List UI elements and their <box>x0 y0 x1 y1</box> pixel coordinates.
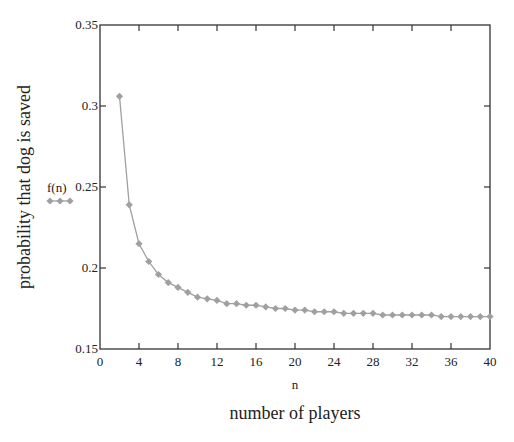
data-point <box>399 311 406 318</box>
data-point <box>252 302 259 309</box>
data-point <box>457 313 464 320</box>
data-point <box>174 284 181 291</box>
data-point <box>360 310 367 317</box>
x-tick-label: 20 <box>289 354 302 369</box>
data-point <box>428 311 435 318</box>
data-point <box>379 311 386 318</box>
legend: f(n) <box>46 180 73 205</box>
data-point <box>477 313 484 320</box>
x-tick-label: 40 <box>484 354 497 369</box>
data-point <box>389 311 396 318</box>
data-point <box>486 313 493 320</box>
x-tick-label: 8 <box>175 354 182 369</box>
data-point <box>184 289 191 296</box>
series-line <box>120 96 491 316</box>
x-tick-label: 32 <box>406 354 419 369</box>
x-tick-label: 4 <box>136 354 143 369</box>
x-tick-label: 12 <box>211 354 224 369</box>
legend-label: f(n) <box>47 180 67 195</box>
y-axis: 0.150.20.250.30.35 <box>75 17 490 356</box>
data-point <box>223 300 230 307</box>
data-point <box>272 305 279 312</box>
data-point <box>467 313 474 320</box>
data-point <box>321 308 328 315</box>
y-tick-label: 0.2 <box>82 260 98 275</box>
chart: 0481216202428323640 0.150.20.250.30.35 n… <box>0 0 514 442</box>
plot-frame <box>100 25 490 349</box>
data-point <box>233 300 240 307</box>
y-axis-title: probability that dog is saved <box>14 85 34 289</box>
data-point <box>447 313 454 320</box>
data-point <box>282 305 289 312</box>
legend-diamond <box>56 197 63 204</box>
y-tick-label: 0.35 <box>75 17 98 32</box>
data-point <box>330 308 337 315</box>
legend-marker <box>46 197 73 204</box>
data-point <box>418 311 425 318</box>
x-axis: 0481216202428323640 <box>97 25 497 369</box>
data-point <box>350 310 357 317</box>
legend-diamond <box>66 197 73 204</box>
data-point <box>204 295 211 302</box>
data-point <box>408 311 415 318</box>
data-point <box>213 297 220 304</box>
data-point <box>262 303 269 310</box>
x-tick-label: 16 <box>250 354 264 369</box>
data-point <box>126 201 133 208</box>
data-point <box>116 93 123 100</box>
y-tick-label: 0.15 <box>75 341 98 356</box>
data-point <box>340 310 347 317</box>
data-point <box>194 294 201 301</box>
y-tick-label: 0.25 <box>75 179 98 194</box>
legend-diamond <box>46 197 53 204</box>
data-point <box>369 310 376 317</box>
data-point <box>311 308 318 315</box>
plot-area <box>100 25 490 349</box>
y-tick-label: 0.3 <box>82 98 98 113</box>
x-axis-title: number of players <box>230 403 361 423</box>
data-point <box>135 240 142 247</box>
x-tick-label: 0 <box>97 354 104 369</box>
data-point <box>291 307 298 314</box>
data-point <box>243 302 250 309</box>
x-tick-label: 28 <box>367 354 380 369</box>
data-point <box>301 307 308 314</box>
series-f-n <box>116 93 494 321</box>
data-point <box>438 313 445 320</box>
x-tick-label: 36 <box>445 354 459 369</box>
x-tick-label: 24 <box>328 354 342 369</box>
x-axis-variable-label: n <box>292 377 299 392</box>
